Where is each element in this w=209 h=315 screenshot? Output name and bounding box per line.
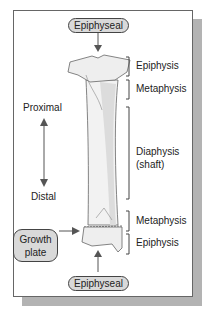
bottom-epiphyseal-label: Epiphyseal bbox=[68, 276, 129, 291]
region-metaphysis-proximal: Metaphysis bbox=[136, 83, 187, 95]
region-metaphysis-distal: Metaphysis bbox=[136, 215, 187, 227]
region-epiphysis-proximal: Epiphysis bbox=[136, 60, 179, 72]
region-epiphysis-distal: Epiphysis bbox=[136, 237, 179, 249]
top-epiphyseal-label: Epiphyseal bbox=[68, 18, 129, 33]
proximal-label: Proximal bbox=[23, 102, 62, 114]
growth-plate-line2: plate bbox=[14, 246, 57, 259]
region-diaphysis-sub: (shaft) bbox=[136, 159, 164, 171]
region-diaphysis: Diaphysis bbox=[136, 146, 179, 158]
growth-plate-label: Growth plate bbox=[13, 229, 58, 262]
growth-plate-line1: Growth bbox=[14, 233, 57, 246]
distal-label: Distal bbox=[31, 191, 56, 203]
